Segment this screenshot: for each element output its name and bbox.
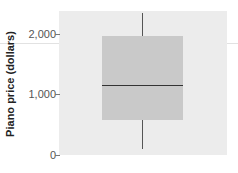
y-tick-mark	[55, 34, 60, 35]
y-tick-mark	[55, 94, 60, 95]
box-iqr	[102, 36, 183, 120]
median-line	[102, 85, 183, 86]
y-axis-label: Piano price (dollars)	[4, 31, 16, 137]
y-tick-label-1000: 1,000	[28, 88, 56, 100]
y-tick-mark	[55, 155, 60, 156]
y-tick-label-2000: 2,000	[28, 28, 56, 40]
upper-whisker	[142, 13, 143, 36]
lower-whisker	[142, 120, 143, 149]
